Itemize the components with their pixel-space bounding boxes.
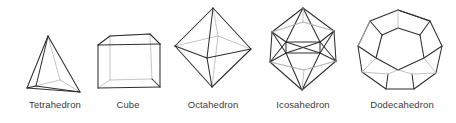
icosahedron-drawing [256, 0, 350, 99]
solid-label-dodecahedron: Dodecahedron [348, 99, 456, 111]
octahedron-drawing [166, 0, 260, 99]
solid-label-cube: Cube [88, 99, 168, 111]
solid-icosahedron: Icosahedron [256, 0, 350, 123]
cube-drawing [88, 0, 168, 99]
solid-label-octahedron: Octahedron [166, 99, 260, 111]
platonic-solids-figure: Tetrahedron Cube [0, 0, 456, 123]
dodecahedron-drawing [348, 0, 456, 99]
solid-label-icosahedron: Icosahedron [256, 99, 350, 111]
solid-dodecahedron: Dodecahedron [348, 0, 456, 123]
solid-cube: Cube [88, 0, 168, 123]
solid-octahedron: Octahedron [166, 0, 260, 123]
